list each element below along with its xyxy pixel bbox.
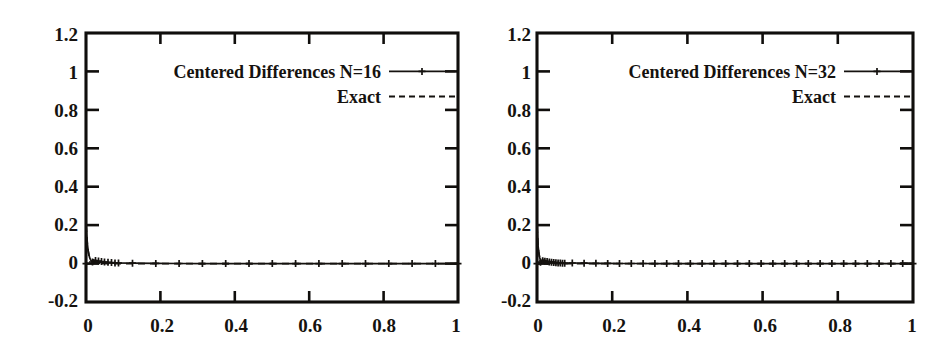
series-n32-line xyxy=(537,222,913,263)
y-tick-label-0.4: 0.4 xyxy=(54,176,78,197)
y-tick-label-0.8: 0.8 xyxy=(507,100,531,121)
x-tick-label-1: 1 xyxy=(907,315,917,336)
x-tick-label-0.6: 0.6 xyxy=(298,315,322,336)
legend: Centered Differences N=16 Exact xyxy=(173,62,455,107)
y-tick-label-1: 1 xyxy=(69,62,79,83)
y-tick-label-0.2: 0.2 xyxy=(54,214,78,235)
y-axis-ticks-right xyxy=(445,71,458,263)
chart-panel-n16: 1.2 1 0.8 0.6 0.4 0.2 0 -0.2 0 0.2 0.4 0… xyxy=(0,0,476,351)
series-n16-line xyxy=(86,220,458,263)
y-axis-ticks xyxy=(86,71,99,263)
y-tick-label-neg0.2: -0.2 xyxy=(48,290,78,311)
x-axis-ticks xyxy=(160,291,383,302)
y-axis-ticks-right xyxy=(900,71,913,263)
x-tick-label-0: 0 xyxy=(533,315,543,336)
x-tick-label-0.2: 0.2 xyxy=(150,315,174,336)
y-tick-label-0.2: 0.2 xyxy=(507,214,531,235)
series-n32-markers xyxy=(534,257,917,267)
legend-label-series-2: Exact xyxy=(792,87,836,107)
series-exact-line xyxy=(86,225,458,264)
x-tick-label-0.4: 0.4 xyxy=(677,315,701,336)
x-tick-label-0: 0 xyxy=(83,315,93,336)
series-n16-markers xyxy=(83,257,462,267)
x-tick-label-0.4: 0.4 xyxy=(224,315,248,336)
y-tick-label-0.6: 0.6 xyxy=(507,138,531,159)
y-tick-label-1.2: 1.2 xyxy=(507,24,531,45)
x-axis-ticks-top xyxy=(160,33,383,44)
y-tick-label-0.6: 0.6 xyxy=(54,138,78,159)
series-exact-line xyxy=(537,226,913,264)
chart-panel-n32: 1.2 1 0.8 0.6 0.4 0.2 0 -0.2 0 0.2 0.4 0… xyxy=(476,0,952,351)
x-tick-label-0.2: 0.2 xyxy=(602,315,626,336)
x-tick-label-0.8: 0.8 xyxy=(828,315,852,336)
y-tick-label-0.4: 0.4 xyxy=(507,176,531,197)
y-tick-label-0: 0 xyxy=(69,252,79,273)
x-tick-label-1: 1 xyxy=(451,315,461,336)
x-tick-label-0.8: 0.8 xyxy=(372,315,396,336)
y-tick-label-1.2: 1.2 xyxy=(54,24,78,45)
legend: Centered Differences N=32 Exact xyxy=(628,62,910,107)
legend-label-series-1: Centered Differences N=16 xyxy=(173,62,381,82)
y-tick-label-0: 0 xyxy=(522,252,532,273)
x-tick-label-0.6: 0.6 xyxy=(753,315,777,336)
chart-svg-n32: 1.2 1 0.8 0.6 0.4 0.2 0 -0.2 0 0.2 0.4 0… xyxy=(476,0,952,351)
legend-label-series-2: Exact xyxy=(337,87,381,107)
chart-svg-n16: 1.2 1 0.8 0.6 0.4 0.2 0 -0.2 0 0.2 0.4 0… xyxy=(0,0,476,351)
legend-label-series-1: Centered Differences N=32 xyxy=(628,62,836,82)
y-axis-ticks xyxy=(537,71,550,263)
y-tick-label-neg0.2: -0.2 xyxy=(501,290,531,311)
y-tick-label-0.8: 0.8 xyxy=(54,100,78,121)
x-axis-ticks xyxy=(612,291,838,302)
legend-key-plus-marker xyxy=(419,68,426,75)
legend-key-plus-marker xyxy=(874,68,881,75)
x-axis-ticks-top xyxy=(612,33,838,44)
y-tick-label-1: 1 xyxy=(522,62,532,83)
figure-canvas: 1.2 1 0.8 0.6 0.4 0.2 0 -0.2 0 0.2 0.4 0… xyxy=(0,0,952,351)
